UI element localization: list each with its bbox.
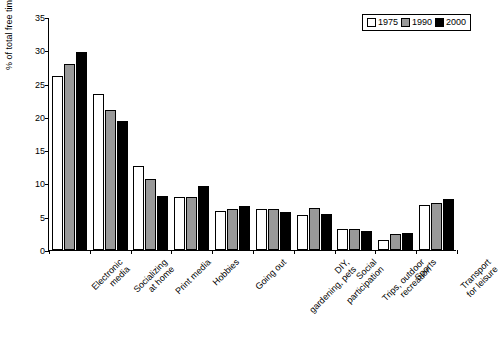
bar-group [294, 18, 335, 250]
x-tick-mark [253, 250, 254, 254]
bar-1990 [349, 229, 360, 250]
bar-1990 [309, 208, 320, 250]
bar-group [171, 18, 212, 250]
bar-1990 [145, 179, 156, 250]
legend-item: 1990 [401, 17, 432, 28]
legend-swatch-2000 [435, 18, 444, 27]
bar-2000 [361, 231, 372, 250]
bar-1975 [133, 166, 144, 250]
x-tick-mark [294, 250, 295, 254]
bar-group [416, 18, 457, 250]
bar-1990 [64, 64, 75, 250]
bar-1990 [227, 209, 238, 250]
x-tick-label: Transportfor leisure [457, 257, 499, 299]
legend-label-2000: 2000 [446, 17, 466, 28]
bar-1975 [297, 215, 308, 250]
x-tick-mark [416, 250, 417, 254]
bar-2000 [157, 196, 168, 250]
bar-group [253, 18, 294, 250]
bar-group [49, 18, 90, 250]
bar-group [131, 18, 172, 250]
bar-2000 [239, 206, 250, 250]
bar-2000 [443, 199, 454, 250]
bar-1975 [419, 205, 430, 250]
bar-group [375, 18, 416, 250]
bar-1990 [431, 203, 442, 250]
legend-label-1990: 1990 [412, 17, 432, 28]
bar-group [335, 18, 376, 250]
x-tick-mark [131, 250, 132, 254]
y-tick-mark [45, 218, 49, 219]
legend-swatch-1975 [367, 18, 376, 27]
y-tick-label: 35 [35, 13, 45, 23]
bar-group [90, 18, 131, 250]
bar-1990 [186, 197, 197, 250]
bars-layer [49, 18, 456, 250]
bar-2000 [321, 214, 332, 250]
bar-1975 [378, 240, 389, 250]
bar-2000 [117, 121, 128, 250]
y-tick-mark [45, 51, 49, 52]
x-tick-mark [335, 250, 336, 254]
legend-label-1975: 1975 [378, 17, 398, 28]
y-tick-label: 20 [35, 113, 45, 123]
bar-1975 [52, 76, 63, 250]
bar-1975 [174, 197, 185, 250]
x-tick-mark [375, 250, 376, 254]
x-tick-label: Socializingat home [132, 257, 177, 302]
bar-1990 [105, 110, 116, 250]
y-tick-mark [45, 151, 49, 152]
bar-1975 [256, 209, 267, 250]
x-tick-mark [49, 250, 50, 254]
y-tick-mark [45, 18, 49, 19]
bar-1975 [215, 211, 226, 250]
x-tick-label: Print media [173, 257, 212, 296]
plot-area: 05101520253035 ElectronicmediaSocializin… [48, 18, 456, 251]
x-tick-label: Going out [253, 257, 288, 292]
x-tick-mark [90, 250, 91, 254]
legend: 1975 1990 2000 [362, 14, 471, 31]
bar-2000 [280, 212, 291, 250]
bar-2000 [402, 233, 413, 250]
y-tick-label: 15 [35, 146, 45, 156]
legend-item: 2000 [435, 17, 466, 28]
x-tick-label: Hobbies [210, 257, 240, 287]
bar-group [212, 18, 253, 250]
y-tick-label: 25 [35, 80, 45, 90]
y-axis-title: % of total free time [4, 56, 14, 70]
bar-2000 [198, 186, 209, 250]
x-tick-label: Electronicmedia [90, 257, 132, 299]
bar-2000 [76, 52, 87, 250]
x-tick-mark [171, 250, 172, 254]
bar-1990 [268, 209, 279, 250]
y-tick-mark [45, 85, 49, 86]
x-tick-mark [457, 250, 458, 254]
bar-1975 [337, 229, 348, 250]
x-tick-mark [212, 250, 213, 254]
y-tick-mark [45, 184, 49, 185]
legend-item: 1975 [367, 17, 398, 28]
y-tick-label: 10 [35, 179, 45, 189]
y-tick-label: 30 [35, 46, 45, 56]
bar-1990 [390, 234, 401, 250]
legend-swatch-1990 [401, 18, 410, 27]
bar-1975 [93, 94, 104, 250]
y-tick-mark [45, 118, 49, 119]
